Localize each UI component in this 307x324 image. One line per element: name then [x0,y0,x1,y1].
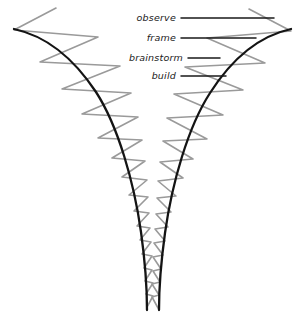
label-group: observe frame brainstorm build [129,12,183,81]
label-frame: frame [147,32,176,43]
funnel-diagram-svg: observe frame brainstorm build [0,0,307,324]
label-brainstorm: brainstorm [129,52,183,63]
label-observe: observe [137,12,176,23]
label-build: build [152,70,177,81]
funnel-right-wall [159,29,291,310]
funnel-diagram-canvas: observe frame brainstorm build [0,0,307,324]
funnel-left-wall [14,29,147,310]
